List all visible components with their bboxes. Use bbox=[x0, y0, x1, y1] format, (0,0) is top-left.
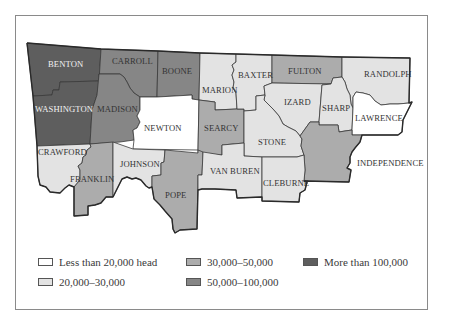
legend-label: 30,000–50,000 bbox=[207, 256, 273, 268]
legend-item-less-than-20000: Less than 20,000 head bbox=[38, 256, 157, 268]
legend-swatch-dark-gray bbox=[186, 278, 201, 286]
legend-item-50000-100000: 50,000–100,000 bbox=[186, 276, 279, 288]
legend-item-more-than-100000: More than 100,000 bbox=[303, 256, 408, 268]
legend-label: Less than 20,000 head bbox=[59, 256, 157, 268]
legend-swatch-light-gray bbox=[38, 278, 53, 286]
legend-swatch-mid-gray bbox=[186, 258, 201, 266]
legend-label: 50,000–100,000 bbox=[207, 276, 279, 288]
legend-label: 20,000–30,000 bbox=[59, 276, 125, 288]
legend-item-30000-50000: 30,000–50,000 bbox=[186, 256, 273, 268]
legend: Less than 20,000 head 20,000–30,000 30,0… bbox=[0, 0, 449, 330]
legend-label: More than 100,000 bbox=[324, 256, 408, 268]
legend-item-20000-30000: 20,000–30,000 bbox=[38, 276, 125, 288]
legend-swatch-white bbox=[38, 258, 53, 266]
legend-swatch-darkest-gray bbox=[303, 258, 318, 266]
